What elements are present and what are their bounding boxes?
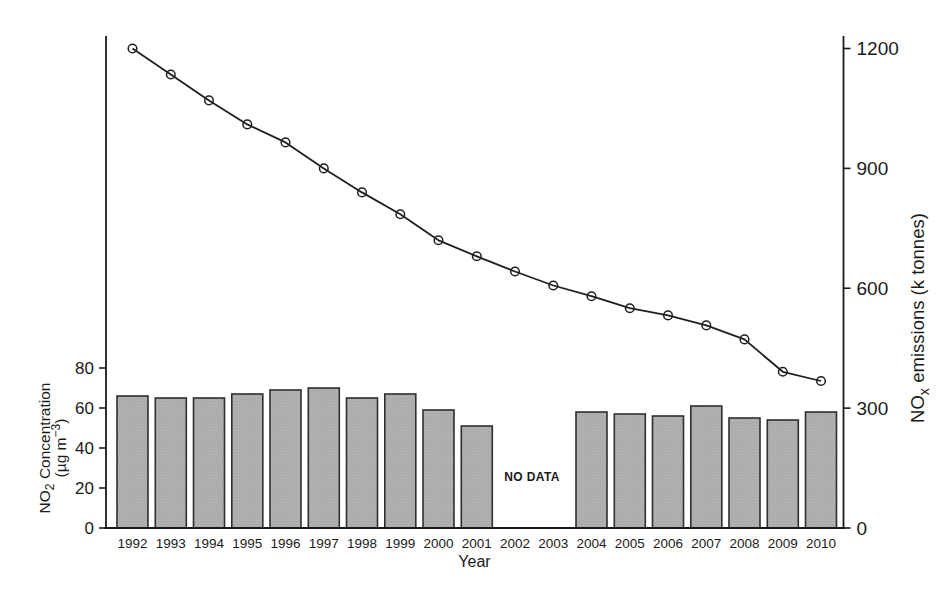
x-axis-title: Year (458, 553, 491, 570)
bar-1996 (270, 390, 301, 528)
bar-1994 (194, 398, 225, 528)
right-tick-label-600: 600 (857, 278, 889, 299)
x-tick-label-2010: 2010 (806, 536, 836, 551)
x-tick-label-2006: 2006 (653, 536, 683, 551)
bar-1999 (385, 394, 416, 528)
bar-1995 (232, 394, 263, 528)
bar-2006 (653, 416, 684, 528)
x-tick-label-1998: 1998 (347, 536, 377, 551)
x-tick-label-1994: 1994 (194, 536, 225, 551)
left-tick-label-20: 20 (75, 479, 94, 498)
x-tick-label-1993: 1993 (156, 536, 186, 551)
x-tick-label-2005: 2005 (615, 536, 645, 551)
bar-1992 (117, 396, 148, 528)
left-tick-label-80: 80 (75, 359, 94, 378)
bar-2001 (461, 426, 492, 528)
x-tick-label-1992: 1992 (117, 536, 147, 551)
no-data-label: NO DATA (504, 470, 560, 484)
right-tick-label-900: 900 (857, 158, 889, 179)
x-tick-label-1999: 1999 (385, 536, 415, 551)
bar-1998 (347, 398, 378, 528)
no2-nox-combo-chart: NO DATA020406080030060090012001992199319… (0, 0, 947, 596)
bar-1997 (308, 388, 339, 528)
x-tick-label-1995: 1995 (232, 536, 262, 551)
right-tick-label-0: 0 (857, 518, 868, 539)
bar-2000 (423, 410, 454, 528)
bar-2008 (729, 418, 760, 528)
left-tick-label-60: 60 (75, 399, 94, 418)
x-tick-label-1996: 1996 (270, 536, 300, 551)
x-tick-label-2009: 2009 (768, 536, 798, 551)
x-tick-label-2004: 2004 (576, 536, 607, 551)
x-tick-label-2001: 2001 (462, 536, 492, 551)
x-tick-label-2008: 2008 (729, 536, 759, 551)
bar-2007 (691, 406, 722, 528)
bar-1993 (155, 398, 186, 528)
bar-2004 (576, 412, 607, 528)
right-tick-label-1200: 1200 (857, 38, 899, 59)
bar-2009 (767, 420, 798, 528)
x-tick-label-2003: 2003 (538, 536, 568, 551)
x-tick-label-1997: 1997 (309, 536, 339, 551)
x-tick-label-2007: 2007 (691, 536, 721, 551)
bar-2005 (614, 414, 645, 528)
x-tick-label-2002: 2002 (500, 536, 530, 551)
bar-2010 (806, 412, 837, 528)
left-tick-label-0: 0 (85, 519, 94, 538)
chart-figure: NO DATA020406080030060090012001992199319… (0, 0, 947, 596)
right-tick-label-300: 300 (857, 398, 889, 419)
left-tick-label-40: 40 (75, 439, 94, 458)
x-tick-label-2000: 2000 (423, 536, 453, 551)
